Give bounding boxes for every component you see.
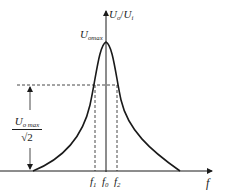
num-sub: o max: [23, 121, 39, 128]
tick-f2-sub: 2: [117, 181, 120, 188]
y-label-u: U: [109, 8, 117, 20]
y-label-sub-i: i: [131, 14, 133, 21]
tick-f2: f2: [114, 176, 120, 189]
tick-f1: f1: [90, 176, 96, 189]
half-power-label: Uo max √2: [12, 116, 42, 143]
tick-f1-sub: 1: [93, 181, 96, 188]
y-axis-label: Uo/Ui: [109, 9, 133, 22]
resonance-curve-diagram: [0, 0, 230, 196]
x-axis-label: f: [206, 177, 209, 189]
tick-f0-sub: 0: [105, 181, 108, 188]
half-power-numerator: Uo max: [12, 116, 42, 130]
half-power-denominator: √2: [12, 132, 42, 143]
num-u: U: [15, 115, 23, 127]
tick-f0: f0: [102, 176, 108, 189]
peak-label-u: U: [80, 28, 88, 40]
peak-label: Uomax: [80, 29, 103, 42]
peak-label-sub: omax: [88, 34, 103, 41]
